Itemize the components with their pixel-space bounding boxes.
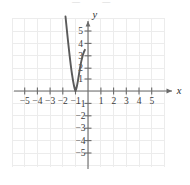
x-tick-label: 5 [149, 96, 154, 106]
y-axis-label: y [92, 9, 98, 20]
x-tick-label: 2 [111, 96, 116, 106]
x-tick-label: −4 [32, 96, 42, 106]
y-tick-label: −4 [75, 136, 85, 146]
y-tick-label: −1 [75, 99, 85, 109]
y-tick-label: −5 [75, 148, 85, 158]
x-tick-label: 4 [137, 96, 142, 106]
x-tick-label: −2 [58, 96, 68, 106]
graph-figure: — — [0, 0, 190, 185]
y-tick-label: −2 [75, 111, 85, 121]
y-tick-labels: 5 4 3 2 1 −1 −2 −3 −4 −5 [75, 26, 85, 158]
x-tick-labels: −5 −4 −3 −2 −1 1 2 3 4 5 [20, 96, 155, 106]
x-tick-label: 3 [124, 96, 129, 106]
y-axis-arrow [86, 21, 91, 27]
y-tick-label: 4 [78, 39, 83, 49]
x-tick-label: 1 [99, 96, 104, 106]
coordinate-plane: −5 −4 −3 −2 −1 1 2 3 4 5 5 4 3 2 1 −1 −2… [0, 0, 190, 185]
x-axis-arrow [167, 89, 173, 94]
x-tick-label: −3 [45, 96, 55, 106]
x-axis-label: x [176, 85, 182, 96]
x-tick-label: −5 [20, 96, 30, 106]
y-tick-label: −3 [75, 123, 85, 133]
y-tick-label: 5 [78, 26, 83, 36]
